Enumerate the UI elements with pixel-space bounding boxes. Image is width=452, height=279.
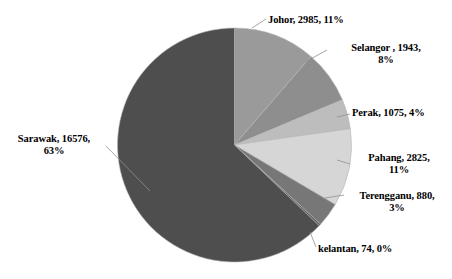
pie-label-terengganu-line2: 3% [345, 202, 449, 214]
leader-line-kelantan [310, 232, 316, 247]
pie-label-pahang-line1: Pahang, 2825, [352, 152, 446, 164]
pie-label-pahang: Pahang, 2825, 11% [352, 152, 446, 176]
pie-chart: Johor, 2985, 11% Selangor , 1943, 8% Per… [0, 0, 452, 279]
pie-label-kelantan-text: kelantan, 74, 0% [318, 243, 392, 254]
pie-label-johor-text: Johor, 2985, 11% [268, 14, 344, 25]
pie-label-kelantan: kelantan, 74, 0% [318, 243, 392, 255]
pie-label-pahang-line2: 11% [352, 164, 446, 176]
pie-label-selangor-line1: Selangor , 1943, [330, 42, 442, 54]
pie-label-terengganu: Terengganu, 880, 3% [345, 190, 449, 214]
pie-label-sarawak: Sarawak, 16576, 63% [2, 133, 106, 157]
leader-line-johor [252, 19, 266, 28]
pie-label-terengganu-line1: Terengganu, 880, [345, 190, 449, 202]
pie-slice-group [118, 28, 352, 262]
pie-label-perak-text: Perak, 1075, 4% [352, 107, 425, 118]
pie-label-johor: Johor, 2985, 11% [268, 14, 344, 26]
pie-label-selangor-line2: 8% [330, 54, 442, 66]
pie-label-sarawak-line1: Sarawak, 16576, [2, 133, 106, 145]
pie-label-sarawak-line2: 63% [2, 145, 106, 157]
pie-label-perak: Perak, 1075, 4% [352, 107, 425, 119]
pie-label-selangor: Selangor , 1943, 8% [330, 42, 442, 66]
